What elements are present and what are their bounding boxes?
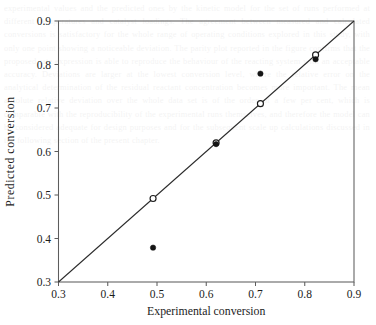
data-point-filled: [150, 245, 155, 250]
x-tick-label: 0.5: [150, 288, 165, 300]
x-tick-label: 0.3: [51, 288, 66, 300]
x-tick-label: 0.9: [347, 288, 362, 300]
series-filled-markers: [150, 57, 318, 251]
parity-plot-svg: 0.30.40.50.60.70.80.9Experimental conver…: [0, 0, 376, 325]
y-tick-label: 0.9: [37, 15, 52, 27]
data-point-filled: [313, 57, 318, 62]
y-axis-title: Predicted conversion: [3, 96, 17, 206]
y-tick-label: 0.3: [37, 276, 52, 288]
x-tick-label: 0.7: [248, 288, 263, 300]
x-tick-label: 0.8: [298, 288, 313, 300]
x-tick-label: 0.6: [199, 288, 214, 300]
y-tick-label: 0.4: [37, 233, 52, 245]
y-tick-label: 0.7: [37, 102, 52, 114]
data-point-filled: [213, 141, 218, 146]
y-axis: 0.30.40.50.60.70.80.9Predicted conversio…: [3, 15, 59, 288]
parity-reference-line: [59, 21, 355, 282]
data-point-open: [150, 195, 156, 201]
y-tick-label: 0.8: [37, 59, 52, 71]
data-point-filled: [258, 71, 263, 76]
x-tick-label: 0.4: [101, 288, 116, 300]
y-tick-label: 0.6: [37, 146, 52, 158]
x-axis-title: Experimental conversion: [147, 304, 265, 318]
parity-plot-figure: 0.30.40.50.60.70.80.9Experimental conver…: [0, 0, 376, 325]
data-point-open: [257, 101, 263, 107]
x-axis: 0.30.40.50.60.70.80.9Experimental conver…: [51, 282, 361, 318]
y-tick-label: 0.5: [37, 189, 52, 201]
